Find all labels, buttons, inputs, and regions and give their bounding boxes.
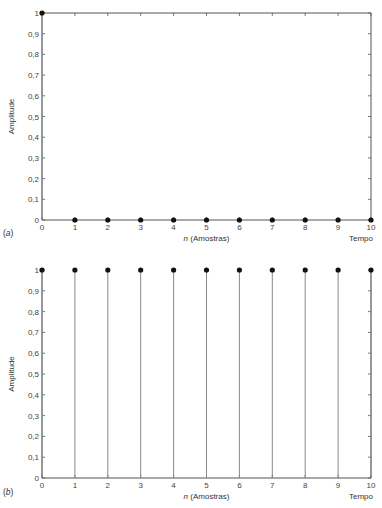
stem-marker	[270, 267, 275, 272]
x-tick-label: 2	[106, 223, 111, 232]
y-tick-label: 0,3	[28, 412, 40, 421]
y-tick-label: 0,5	[28, 370, 40, 379]
x-axis-title: n (Amostras)	[184, 234, 230, 243]
stem-marker	[368, 217, 373, 222]
y-tick-label: 0,3	[28, 154, 40, 163]
y-tick-label: 0,6	[28, 92, 40, 101]
y-tick-label: 0,1	[28, 453, 40, 462]
x-tick-label: 10	[367, 481, 376, 490]
x-tick-label: 8	[303, 481, 308, 490]
y-tick-label: 0,8	[28, 308, 40, 317]
x-tick-label: 9	[336, 481, 341, 490]
x-tick-label: 5	[204, 481, 209, 490]
stem-charts-figure: 00,10,20,30,40,50,60,70,80,9101234567891…	[0, 0, 382, 508]
x-tick-label: 6	[237, 481, 242, 490]
stem-marker	[39, 267, 44, 272]
x-tick-label: 8	[303, 223, 308, 232]
y-tick-label: 0,7	[28, 328, 40, 337]
x-tick-label: 0	[40, 223, 45, 232]
chart-panel-a: 00,10,20,30,40,50,60,70,80,9101234567891…	[3, 9, 376, 243]
y-tick-label: 0,2	[28, 432, 40, 441]
stem-marker	[368, 267, 373, 272]
stem-marker	[303, 267, 308, 272]
y-tick-label: 0,8	[28, 50, 40, 59]
y-tick-label: 0,5	[28, 113, 40, 122]
stem-marker	[105, 217, 110, 222]
stem-marker	[138, 267, 143, 272]
y-tick-label: 0,6	[28, 349, 40, 358]
stem-marker	[105, 267, 110, 272]
x-axis-right-title: Tempo	[349, 234, 374, 243]
chart-panel-b: 00,10,20,30,40,50,60,70,80,9101234567891…	[3, 266, 376, 501]
x-tick-label: 4	[171, 223, 176, 232]
x-tick-label: 3	[138, 481, 143, 490]
x-tick-label: 0	[40, 481, 45, 490]
y-tick-label: 0,2	[28, 175, 40, 184]
stem-marker	[171, 267, 176, 272]
x-tick-label: 5	[204, 223, 209, 232]
y-tick-label: 0,7	[28, 71, 40, 80]
y-axis-title: Amplitude	[7, 98, 16, 134]
x-tick-label: 9	[336, 223, 341, 232]
y-tick-label: 0,4	[28, 391, 40, 400]
y-axis-title: Amplitude	[7, 356, 16, 392]
panel-label: (a)	[3, 228, 14, 238]
x-tick-label: 2	[106, 481, 111, 490]
y-tick-label: 0,9	[28, 30, 40, 39]
y-tick-label: 0,4	[28, 133, 40, 142]
stem-marker	[39, 10, 44, 15]
stem-marker	[336, 267, 341, 272]
stem-marker	[138, 217, 143, 222]
stem-marker	[237, 217, 242, 222]
x-tick-label: 4	[171, 481, 176, 490]
stem-marker	[72, 267, 77, 272]
x-axis-title: n (Amostras)	[184, 492, 230, 501]
stem-marker	[336, 217, 341, 222]
stem-marker	[303, 217, 308, 222]
x-axis-right-title: Tempo	[349, 492, 374, 501]
x-tick-label: 1	[73, 481, 78, 490]
x-tick-label: 7	[270, 481, 275, 490]
x-tick-label: 7	[270, 223, 275, 232]
y-tick-label: 0,1	[28, 195, 40, 204]
stem-marker	[204, 267, 209, 272]
stem-marker	[204, 217, 209, 222]
stem-marker	[237, 267, 242, 272]
stem-marker	[171, 217, 176, 222]
y-tick-label: 0,9	[28, 287, 40, 296]
x-tick-label: 6	[237, 223, 242, 232]
stem-marker	[72, 217, 77, 222]
y-tick-label: 1	[35, 9, 40, 18]
stem-marker	[270, 217, 275, 222]
x-tick-label: 10	[367, 223, 376, 232]
panel-label: (b)	[3, 487, 14, 497]
y-tick-label: 1	[35, 266, 40, 275]
x-tick-label: 1	[73, 223, 78, 232]
x-tick-label: 3	[138, 223, 143, 232]
